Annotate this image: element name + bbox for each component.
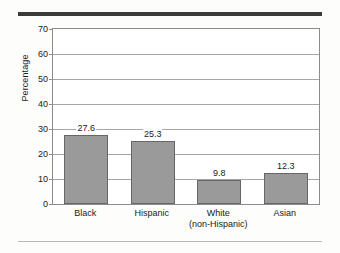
bottom-divider-rule <box>18 241 322 242</box>
x-axis-tick-label-line: Asian <box>252 208 319 219</box>
x-axis-tick-labels: BlackHispanicWhite(non-Hispanic)Asian <box>52 208 320 248</box>
y-axis-tick-label: 50 <box>38 74 53 84</box>
bar-slot: 25.3 <box>120 29 187 204</box>
x-axis-tick-label: Asian <box>252 208 319 219</box>
x-axis-tick-label: Black <box>52 208 119 219</box>
y-axis-tick-label: 40 <box>38 99 53 109</box>
x-axis-tick-label-line: Hispanic <box>119 208 186 219</box>
x-axis-tick-label: White(non-Hispanic) <box>185 208 252 230</box>
x-axis-tick-label: Hispanic <box>119 208 186 219</box>
bar-value-label: 25.3 <box>143 129 163 139</box>
bar[interactable] <box>64 135 108 204</box>
bar-value-label: 12.3 <box>276 161 296 171</box>
x-axis-tick-label-line: White <box>185 208 252 219</box>
bar-value-label: 27.6 <box>76 123 96 133</box>
bar-slot: 9.8 <box>186 29 253 204</box>
bar-slot: 12.3 <box>253 29 320 204</box>
bar[interactable] <box>131 141 175 204</box>
bar-chart-figure: Percentage 010203040506070 27.625.39.812… <box>0 0 340 253</box>
y-axis-tick-label: 30 <box>38 124 53 134</box>
bar[interactable] <box>197 180 241 205</box>
bar-slot: 27.6 <box>53 29 120 204</box>
y-axis-title: Percentage <box>20 33 30 123</box>
y-axis-tick-label: 10 <box>38 174 53 184</box>
bar-series: 27.625.39.812.3 <box>53 29 319 204</box>
plot-area: 010203040506070 27.625.39.812.3 <box>52 28 320 205</box>
y-axis-tick-label: 70 <box>38 24 53 34</box>
bar[interactable] <box>264 173 308 204</box>
y-axis-tick-label: 20 <box>38 149 53 159</box>
y-axis-tick-label: 60 <box>38 49 53 59</box>
x-axis-tick-label-line: (non-Hispanic) <box>185 219 252 230</box>
bar-value-label: 9.8 <box>212 168 227 178</box>
x-axis-tick-label-line: Black <box>52 208 119 219</box>
